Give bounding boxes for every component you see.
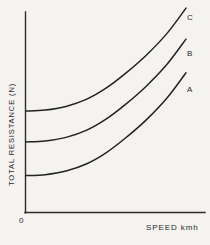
curve-label-c: C [187, 14, 193, 22]
resistance-speed-figure: TOTAL RESISTANCE (N) SPEED kmh 0 C B A [0, 0, 210, 245]
curves-group [26, 8, 186, 175]
plot-area [0, 0, 210, 245]
curve-b [26, 39, 186, 142]
origin-label: 0 [19, 217, 24, 225]
y-axis-label: TOTAL RESISTANCE (N) [8, 83, 16, 186]
x-axis-label: SPEED kmh [146, 224, 199, 232]
curve-c [26, 8, 186, 111]
curve-label-b: B [187, 50, 193, 58]
curve-label-a: A [187, 86, 193, 94]
